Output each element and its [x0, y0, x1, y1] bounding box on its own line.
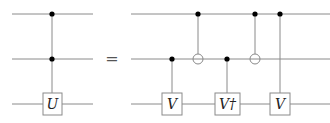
- control-dot-icon: [49, 11, 54, 16]
- control-dot-icon: [252, 11, 257, 16]
- control-dot-icon: [277, 11, 282, 16]
- equals-sign: =: [105, 49, 118, 68]
- circuit-svg: U = V V† V: [0, 0, 330, 123]
- gate-vdag-label: V†: [219, 96, 237, 112]
- gate-u-label: U: [47, 96, 60, 112]
- control-dot-icon: [49, 56, 54, 61]
- circuit-diagram: U = V V† V: [0, 0, 330, 123]
- control-dot-icon: [195, 11, 200, 16]
- control-dot-icon: [224, 56, 229, 61]
- control-dot-icon: [169, 56, 174, 61]
